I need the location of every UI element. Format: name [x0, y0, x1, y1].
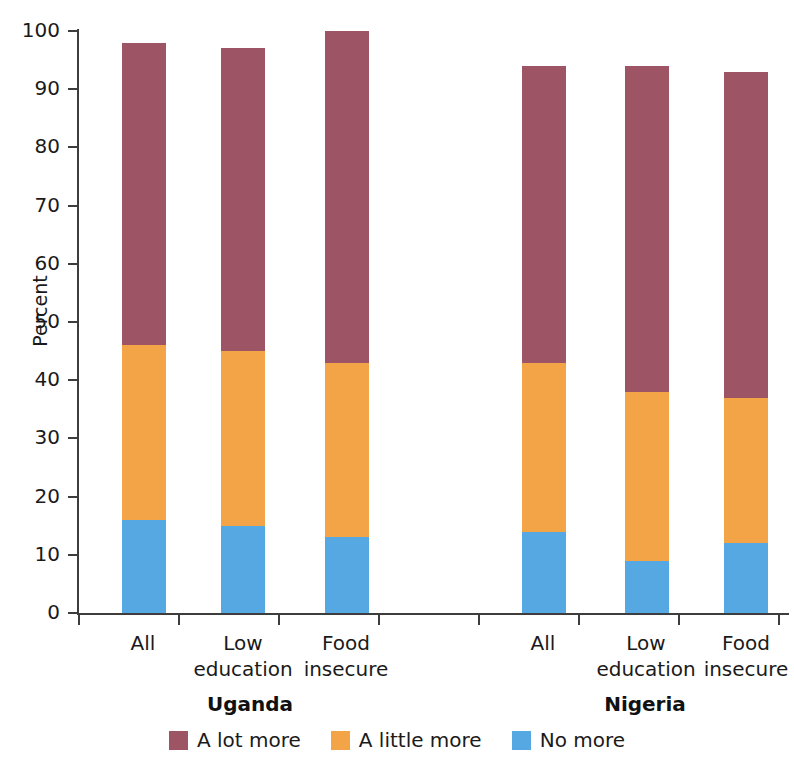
y-tick-mark	[68, 612, 77, 614]
stacked-bar	[522, 31, 566, 613]
y-tick-label: 90	[35, 78, 60, 98]
legend-swatch-icon	[169, 731, 188, 750]
segment-a-lot-more	[522, 66, 566, 363]
x-tick-mark	[178, 615, 180, 625]
segment-a-lot-more	[221, 48, 265, 351]
segment-a-lot-more	[122, 43, 166, 346]
y-tick-label: 70	[35, 195, 60, 215]
segment-a-little-more	[625, 392, 669, 561]
segment-a-lot-more	[325, 31, 369, 363]
legend-item[interactable]: No more	[512, 730, 625, 750]
x-tick-mark	[378, 615, 380, 625]
x-tick-mark	[478, 615, 480, 625]
x-tick-mark	[278, 615, 280, 625]
y-axis-line	[77, 29, 79, 615]
legend-swatch-icon	[331, 731, 350, 750]
legend-item[interactable]: A little more	[331, 730, 482, 750]
legend-label: A little more	[359, 730, 482, 750]
y-tick-mark	[68, 146, 77, 148]
x-tick-mark	[78, 615, 80, 625]
segment-a-little-more	[522, 363, 566, 532]
stacked-bar-chart: Percent 0102030405060708090100 AllLowedu…	[0, 0, 794, 761]
stacked-bar	[625, 31, 669, 613]
y-tick-mark	[68, 496, 77, 498]
segment-no-more	[325, 537, 369, 613]
y-tick-label: 80	[35, 136, 60, 156]
group-label: Uganda	[170, 692, 330, 716]
y-tick-mark	[68, 437, 77, 439]
segment-no-more	[522, 532, 566, 613]
x-tick-mark	[578, 615, 580, 625]
chart-legend: A lot moreA little moreNo more	[0, 730, 794, 750]
stacked-bar	[325, 31, 369, 613]
y-tick-mark	[68, 88, 77, 90]
legend-label: No more	[540, 730, 625, 750]
legend-swatch-icon	[512, 731, 531, 750]
segment-a-lot-more	[724, 72, 768, 398]
legend-item[interactable]: A lot more	[169, 730, 301, 750]
segment-no-more	[122, 520, 166, 613]
legend-label: A lot more	[197, 730, 301, 750]
stacked-bar	[724, 31, 768, 613]
y-tick-mark	[68, 30, 77, 32]
category-label-line: insecure	[676, 656, 794, 682]
y-tick-label: 30	[35, 427, 60, 447]
stacked-bar	[122, 31, 166, 613]
y-tick-label: 60	[35, 253, 60, 273]
y-tick-mark	[68, 321, 77, 323]
y-tick-label: 10	[35, 544, 60, 564]
segment-a-little-more	[221, 351, 265, 526]
segment-no-more	[221, 526, 265, 613]
y-tick-mark	[68, 379, 77, 381]
y-tick-label: 100	[22, 20, 60, 40]
segment-a-lot-more	[625, 66, 669, 392]
group-label: Nigeria	[565, 692, 725, 716]
stacked-bar	[221, 31, 265, 613]
category-label-line: Food	[276, 630, 416, 656]
segment-a-little-more	[122, 345, 166, 520]
category-label-line: insecure	[276, 656, 416, 682]
segment-no-more	[625, 561, 669, 613]
x-axis-line	[77, 613, 789, 615]
x-axis-category-label: Foodinsecure	[676, 630, 794, 682]
y-tick-mark	[68, 554, 77, 556]
y-tick-label: 40	[35, 369, 60, 389]
x-tick-mark	[778, 615, 780, 625]
x-tick-mark	[678, 615, 680, 625]
y-tick-mark	[68, 263, 77, 265]
y-tick-label: 0	[47, 602, 60, 622]
y-tick-label: 20	[35, 486, 60, 506]
x-axis-category-label: Foodinsecure	[276, 630, 416, 682]
category-label-line: Food	[676, 630, 794, 656]
y-tick-mark	[68, 205, 77, 207]
segment-a-little-more	[325, 363, 369, 538]
segment-a-little-more	[724, 398, 768, 544]
y-tick-label: 50	[35, 311, 60, 331]
segment-no-more	[724, 543, 768, 613]
